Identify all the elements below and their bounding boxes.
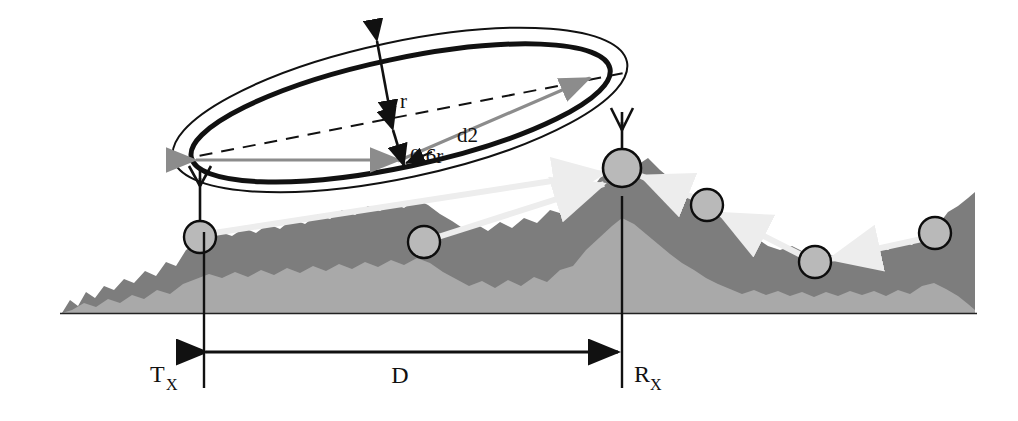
- label-distance-d: D: [391, 362, 408, 388]
- receiver-node[interactable]: [603, 149, 641, 187]
- relay-node-1[interactable]: [691, 189, 723, 221]
- label-tx-main: T: [150, 361, 165, 387]
- label-receiver: R X: [634, 361, 662, 393]
- label-rx-sub: X: [650, 376, 662, 393]
- diagram-canvas: r 0.6r d2 D T X R X: [0, 0, 1018, 421]
- antenna-rx-icon: [611, 108, 633, 150]
- radius-dimension-arrow: [377, 41, 392, 122]
- idle-node[interactable]: [408, 226, 440, 258]
- label-transmitter: T X: [150, 361, 178, 393]
- label-0-6r: 0.6r: [410, 144, 443, 168]
- label-d2: d2: [457, 123, 478, 147]
- label-r: r: [400, 89, 407, 113]
- relay-node-2[interactable]: [799, 246, 831, 278]
- label-rx-main: R: [634, 361, 650, 387]
- transmitter-node[interactable]: [184, 221, 216, 253]
- relay-node-3[interactable]: [919, 217, 951, 249]
- label-tx-sub: X: [166, 376, 178, 393]
- antenna-tx-icon: [189, 166, 211, 222]
